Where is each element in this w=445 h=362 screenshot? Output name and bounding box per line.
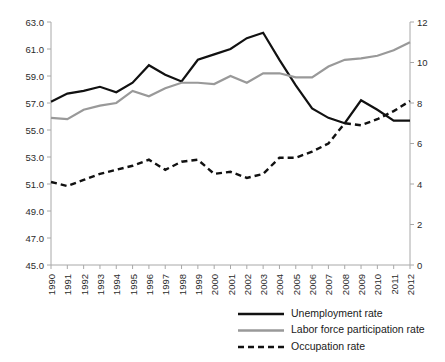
right-axis-tick-label: 6 xyxy=(417,138,422,149)
x-axis-tick-label: 1994 xyxy=(111,274,122,295)
x-axis-tick-label: 1996 xyxy=(144,274,155,295)
x-axis-tick-label: 2003 xyxy=(258,274,269,295)
legend-label-1: Unemployment rate xyxy=(291,307,383,319)
x-axis-tick-label: 2001 xyxy=(226,274,237,295)
x-axis-tick-label: 2008 xyxy=(340,274,351,295)
chart-container: 45.047.049.051.053.055.057.059.061.063.0… xyxy=(0,0,445,362)
x-axis-tick-label: 2012 xyxy=(405,274,416,295)
left-axis-tick-label: 49.0 xyxy=(26,206,45,217)
x-axis-tick-label: 1992 xyxy=(79,274,90,295)
left-axis-tick-label: 47.0 xyxy=(26,233,45,244)
x-axis-tick-label: 1990 xyxy=(46,274,57,295)
right-axis-tick-label: 10 xyxy=(417,57,428,68)
x-axis-tick-label: 2000 xyxy=(209,274,220,295)
left-axis-tick-label: 63.0 xyxy=(26,17,45,28)
x-axis-tick-label: 2005 xyxy=(291,274,302,295)
x-axis-tick-label: 2007 xyxy=(323,274,334,295)
series-line-3 xyxy=(51,101,410,186)
x-axis-tick-label: 2011 xyxy=(389,274,400,294)
x-axis-tick-label: 2004 xyxy=(274,274,285,295)
left-axis-tick-label: 53.0 xyxy=(26,152,45,163)
right-axis-tick-label: 12 xyxy=(417,17,428,28)
left-axis-tick-label: 55.0 xyxy=(26,125,45,136)
x-axis-tick-label: 1991 xyxy=(62,274,73,295)
x-axis-tick-label: 1999 xyxy=(193,274,204,295)
x-axis-tick-label: 1997 xyxy=(160,274,171,295)
x-axis-tick-label: 1995 xyxy=(128,274,139,295)
x-axis-tick-label: 2010 xyxy=(372,274,383,295)
x-axis-tick-label: 2002 xyxy=(242,274,253,295)
right-axis-tick-label: 8 xyxy=(417,98,422,109)
left-axis-tick-label: 59.0 xyxy=(26,71,45,82)
left-axis-tick-label: 45.0 xyxy=(26,260,45,271)
x-axis-tick-label: 2006 xyxy=(307,274,318,295)
legend-label-2: Labor force participation rate xyxy=(291,323,425,335)
left-axis-tick-label: 61.0 xyxy=(26,44,45,55)
right-axis-tick-label: 4 xyxy=(417,179,422,190)
series-line-1 xyxy=(51,33,410,123)
x-axis-tick-label: 1998 xyxy=(177,274,188,295)
right-axis-tick-label: 2 xyxy=(417,219,422,230)
x-axis-tick-label: 2009 xyxy=(356,274,367,295)
legend-label-3: Occupation rate xyxy=(291,340,365,352)
left-axis-tick-label: 51.0 xyxy=(26,179,45,190)
left-axis-tick-label: 57.0 xyxy=(26,98,45,109)
line-chart: 45.047.049.051.053.055.057.059.061.063.0… xyxy=(0,0,445,362)
right-axis-tick-label: 0 xyxy=(417,260,422,271)
x-axis-tick-label: 1993 xyxy=(95,274,106,295)
